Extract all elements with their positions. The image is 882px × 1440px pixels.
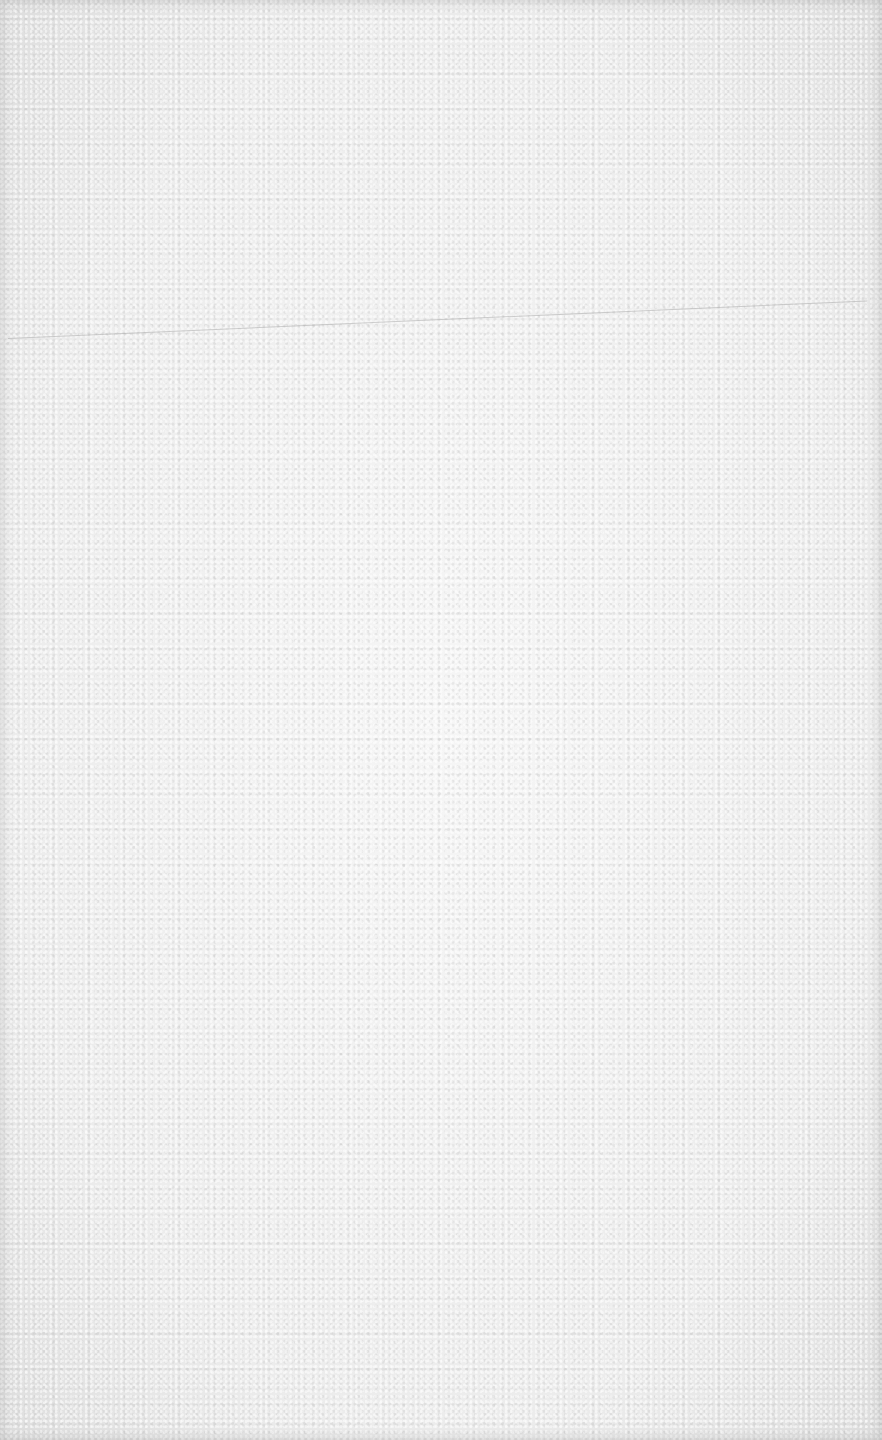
faint-scratch-line xyxy=(8,300,867,339)
textured-paper-background xyxy=(0,0,882,1440)
